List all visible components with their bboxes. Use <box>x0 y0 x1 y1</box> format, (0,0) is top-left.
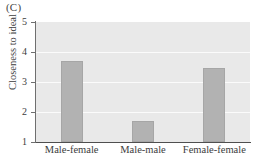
x-axis-line <box>35 142 251 143</box>
figure-panel-c: (C) Closeness to ideal 12345 Male-female… <box>0 0 259 161</box>
y-tick-label: 1 <box>13 137 27 147</box>
bar <box>203 68 225 142</box>
y-tick-label: 4 <box>13 47 27 57</box>
y-tick-mark <box>31 22 36 23</box>
y-tick-mark <box>31 82 36 83</box>
y-tick-label: 3 <box>13 77 27 87</box>
y-tick-mark <box>31 112 36 113</box>
y-tick-label: 2 <box>13 107 27 117</box>
x-axis-category-label: Male-male <box>107 144 178 156</box>
y-tick-mark <box>31 52 36 53</box>
gridline <box>36 52 250 54</box>
y-tick-label: 5 <box>13 17 27 27</box>
x-axis-category-label: Female-female <box>179 144 250 156</box>
bar <box>61 61 83 142</box>
plot-area-wrapper <box>36 22 250 142</box>
x-axis-category-label: Male-female <box>36 144 107 156</box>
bar <box>132 121 154 142</box>
y-tick-mark <box>31 142 36 143</box>
